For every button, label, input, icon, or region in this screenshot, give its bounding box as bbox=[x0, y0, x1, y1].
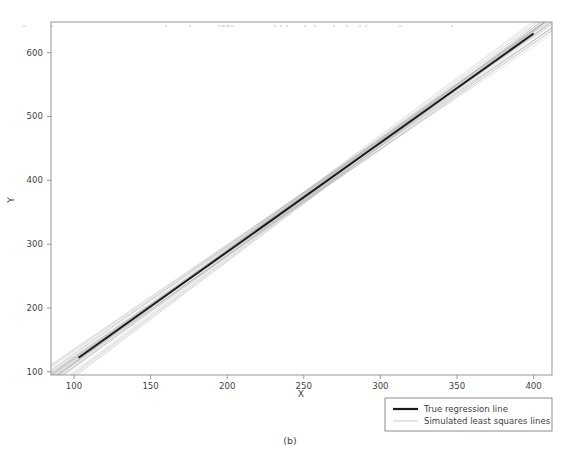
scatter-marker bbox=[23, 25, 25, 27]
scatter-marker bbox=[333, 25, 335, 27]
y-tick-label: 400 bbox=[27, 175, 43, 185]
scatter-marker bbox=[365, 25, 367, 27]
legend-label-true-line: True regression line bbox=[423, 404, 508, 414]
x-tick-label: 350 bbox=[449, 381, 465, 391]
regression-simulation-chart: 100150200250300350400 100200300400500600… bbox=[0, 0, 570, 458]
x-tick-label: 200 bbox=[219, 381, 235, 391]
x-tick-label: 300 bbox=[372, 381, 388, 391]
y-tick-label: 100 bbox=[27, 367, 43, 377]
figure-caption: (b) bbox=[283, 435, 296, 446]
legend: True regression line Simulated least squ… bbox=[385, 398, 552, 431]
scatter-marker bbox=[228, 25, 230, 27]
scatter-marker bbox=[286, 25, 288, 27]
x-tick-label: 100 bbox=[66, 381, 82, 391]
scatter-marker bbox=[221, 25, 223, 27]
x-tick-label: 150 bbox=[142, 381, 158, 391]
y-tick-label: 200 bbox=[27, 303, 43, 313]
y-tick-label: 600 bbox=[27, 48, 43, 58]
scatter-marker bbox=[451, 25, 453, 27]
scatter-marker bbox=[399, 25, 401, 27]
scatter-marker bbox=[223, 25, 225, 27]
y-axis-title: Y bbox=[5, 197, 16, 204]
scatter-marker bbox=[280, 25, 282, 27]
scatter-marker bbox=[359, 25, 361, 27]
scatter-marker bbox=[346, 25, 348, 27]
scatter-marker bbox=[165, 25, 167, 27]
x-tick-label: 400 bbox=[525, 381, 541, 391]
y-tick-label: 500 bbox=[27, 111, 43, 121]
scatter-marker bbox=[274, 25, 276, 27]
scatter-marker bbox=[231, 25, 233, 27]
scatter-marker bbox=[226, 25, 228, 27]
x-axis-title: X bbox=[298, 388, 304, 399]
legend-box bbox=[385, 398, 552, 431]
scatter-marker bbox=[314, 25, 316, 27]
scatter-marker bbox=[218, 25, 220, 27]
y-tick-label: 300 bbox=[27, 239, 43, 249]
scatter-marker bbox=[304, 25, 306, 27]
figure-container: 100150200250300350400 100200300400500600… bbox=[0, 0, 570, 458]
scatter-marker bbox=[189, 25, 191, 27]
legend-label-simulated-lines: Simulated least squares lines bbox=[424, 416, 551, 426]
